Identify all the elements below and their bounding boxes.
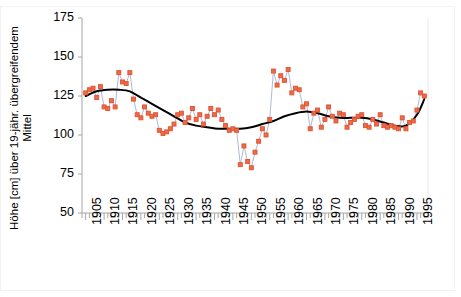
x-tick-label: 1905 [91, 197, 104, 225]
x-tick-label: 1990 [404, 197, 417, 225]
x-tick-label: 1955 [275, 197, 288, 225]
plot-area [0, 0, 461, 297]
x-tick-label: 1915 [127, 197, 140, 225]
x-tick-label: 1940 [220, 197, 233, 225]
x-tick-label: 1985 [385, 197, 398, 225]
y-tick-label: 50 [40, 206, 74, 219]
x-tick-label: 1945 [238, 197, 251, 225]
trend-line [86, 90, 425, 129]
axes [78, 18, 428, 213]
x-tick-label: 1935 [201, 197, 214, 225]
x-tick-label: 1930 [183, 197, 196, 225]
x-tick-label: 1920 [146, 197, 159, 225]
y-tick-label: 75 [40, 167, 74, 180]
data-point-markers [84, 67, 427, 169]
y-tick-label: 175 [40, 11, 74, 24]
x-tick-label: 1910 [109, 197, 122, 225]
chart-container: Höhe [cm] über 19-jähr. übergreifendem M… [0, 0, 461, 297]
x-tick-label: 1975 [348, 197, 361, 225]
x-tick-label: 1970 [330, 197, 343, 225]
x-tick-label: 1995 [422, 197, 435, 225]
y-tick-label: 100 [40, 128, 74, 141]
x-tick-label: 1950 [256, 197, 269, 225]
x-tick-label: 1925 [164, 197, 177, 225]
x-tick-label: 1960 [293, 197, 306, 225]
y-tick-label: 150 [40, 50, 74, 63]
y-tick-label: 125 [40, 89, 74, 102]
x-tick-label: 1965 [312, 197, 325, 225]
x-tick-label: 1980 [367, 197, 380, 225]
